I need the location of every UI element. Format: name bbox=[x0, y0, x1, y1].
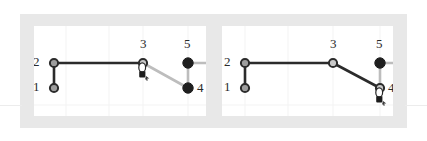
edge-3-4 bbox=[333, 63, 380, 88]
gridlines-left bbox=[34, 26, 206, 116]
edge-3-4 bbox=[143, 63, 188, 88]
node-1 bbox=[241, 84, 249, 92]
figure-root: 1 2 3 4 5 bbox=[0, 0, 427, 141]
node-label-1: 1 bbox=[34, 80, 40, 93]
node-label-4: 4 bbox=[197, 81, 204, 94]
edges-active-left bbox=[54, 63, 143, 88]
panel-before-canvas bbox=[34, 26, 206, 116]
panel-after-canvas bbox=[222, 26, 393, 116]
node-3 bbox=[329, 59, 337, 67]
node-2 bbox=[241, 59, 249, 67]
node-label-5: 5 bbox=[376, 37, 383, 50]
baseline-rule-right bbox=[405, 105, 427, 106]
node-label-3: 3 bbox=[330, 37, 337, 50]
gridlines-right bbox=[222, 26, 393, 116]
node-3 bbox=[139, 59, 147, 67]
node-label-3: 3 bbox=[140, 37, 147, 50]
frame-band-right bbox=[393, 14, 407, 128]
node-4 bbox=[376, 84, 384, 92]
panel-after: 1 2 3 4 5 bbox=[222, 26, 393, 116]
node-label-2: 2 bbox=[34, 55, 40, 68]
node-1 bbox=[50, 84, 58, 92]
edges-active-right bbox=[245, 63, 380, 88]
frame-band-left bbox=[20, 14, 34, 128]
node-5 bbox=[183, 58, 193, 68]
node-label-2: 2 bbox=[224, 55, 231, 68]
node-4 bbox=[183, 83, 193, 93]
node-label-5: 5 bbox=[184, 37, 191, 50]
node-2 bbox=[50, 59, 58, 67]
node-label-4: 4 bbox=[388, 81, 393, 94]
baseline-rule-left bbox=[0, 105, 22, 106]
node-label-1: 1 bbox=[224, 80, 231, 93]
node-5 bbox=[375, 58, 385, 68]
panel-before: 1 2 3 4 5 bbox=[34, 26, 206, 116]
frame-band-middle bbox=[206, 14, 222, 128]
